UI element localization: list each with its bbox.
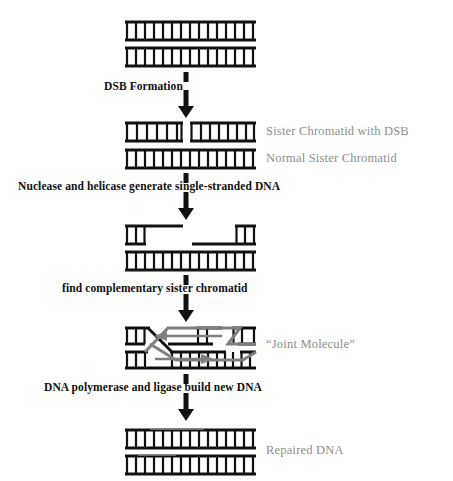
duplex-intact-lower	[125, 48, 256, 66]
duplex-resected-left-fragment	[125, 226, 183, 244]
label-repaired-dna: Repaired DNA	[266, 443, 344, 458]
caption-find-complementary: find complementary sister chromatid	[62, 282, 247, 294]
stage-joint-molecule	[125, 328, 256, 368]
duplex-repaired-upper	[125, 429, 256, 448]
duplex-dsb-normal-lower	[125, 150, 256, 168]
synthesis-arrow-rightward	[155, 354, 214, 364]
stage-intact-sister-chromatids	[125, 22, 256, 66]
caption-dsb-formation: DSB Formation	[104, 80, 183, 92]
stage-repaired-dna	[125, 429, 256, 474]
duplex-resected-right-fragment	[192, 226, 256, 244]
label-normal-sister-chromatid: Normal Sister Chromatid	[266, 151, 397, 166]
duplex-dsb-upper-left-fragment	[125, 123, 183, 141]
diagram-canvas	[0, 0, 453, 481]
label-joint-molecule: “Joint Molecule”	[266, 337, 355, 352]
duplex-resected-normal-lower	[125, 252, 256, 270]
duplex-intact-upper	[125, 22, 256, 40]
duplex-repaired-lower	[125, 455, 256, 474]
stage-single-stranded-resection	[125, 226, 256, 270]
duplex-dsb-upper-right-fragment	[190, 123, 256, 141]
stage-sister-chromatid-with-dsb	[125, 123, 256, 168]
caption-polymerase-ligase: DNA polymerase and ligase build new DNA	[44, 381, 262, 393]
caption-nuclease-helicase: Nuclease and helicase generate single-st…	[18, 180, 280, 192]
dna-repair-diagram: DSB Formation Nuclease and helicase gene…	[0, 0, 453, 481]
synthesis-arrow-leftward	[154, 331, 222, 341]
label-sister-chromatid-with-dsb: Sister Chromatid with DSB	[266, 124, 409, 139]
arrow-dsb-formation	[178, 72, 194, 118]
